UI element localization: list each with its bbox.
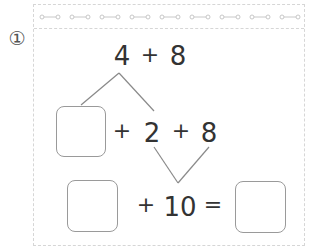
answer-box-split[interactable] (56, 106, 106, 157)
row2-plus-1: + (113, 116, 131, 146)
row3-equals: = (204, 190, 222, 220)
row2-operand-b: 8 (201, 118, 218, 148)
row1-operand-a: 4 (114, 41, 131, 71)
row2-plus-2: + (172, 116, 190, 146)
row3-operand: 10 (163, 192, 196, 222)
answer-box-result[interactable] (235, 181, 286, 233)
row2-operand-a: 2 (144, 118, 161, 148)
row1-plus: + (141, 40, 159, 70)
answer-box-addend[interactable] (67, 180, 118, 232)
row1-operand-b: 8 (170, 41, 187, 71)
row3-plus: + (137, 190, 155, 220)
